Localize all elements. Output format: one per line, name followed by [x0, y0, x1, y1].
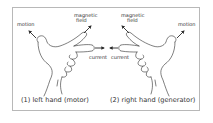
- right-current-label: current: [111, 55, 129, 60]
- left-current-label: current: [89, 55, 107, 60]
- right-hand-drawing: [119, 32, 176, 96]
- left-hand-caption: (1) left hand (motor): [21, 97, 89, 104]
- left-motion-label: motion: [17, 22, 35, 27]
- fleming-hands-illustration: [0, 0, 213, 123]
- left-field-label-line2: field: [76, 18, 87, 23]
- left-hand-drawing: [37, 32, 94, 96]
- right-field-label-line2: field: [127, 18, 138, 23]
- left-field-arrow: [84, 26, 91, 33]
- left-motion-arrow: [29, 31, 36, 38]
- right-field-arrow: [122, 26, 129, 33]
- right-motion-label: motion: [178, 22, 196, 27]
- right-motion-arrow: [177, 31, 184, 38]
- right-hand-caption: (2) right hand (generator): [110, 97, 195, 104]
